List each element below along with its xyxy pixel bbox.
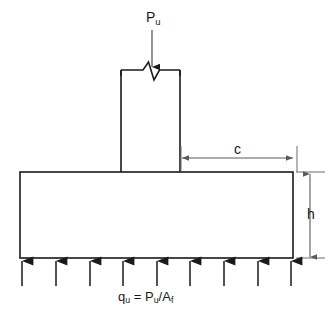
soil-pressure-area-subscript: f (171, 295, 173, 305)
column-break-symbol (121, 62, 180, 80)
soil-pressure-p-symbol: P (145, 289, 154, 304)
soil-pressure-arrow-group (22, 261, 291, 286)
applied-load-symbol: P (146, 9, 155, 25)
footing-block (20, 172, 293, 258)
cantilever-dimension-label: c (234, 142, 241, 156)
soil-pressure-area-symbol: /A (159, 289, 171, 304)
soil-pressure-p-subscript: u (154, 295, 159, 305)
soil-pressure-q-subscript: u (125, 295, 130, 305)
equation-equals-sign: = (130, 289, 145, 304)
footing-diagram: Pu c h qu = Pu/Af (0, 0, 329, 314)
diagram-canvas (0, 0, 329, 314)
applied-load-subscript: u (155, 16, 160, 27)
soil-pressure-equation: qu = Pu/Af (118, 290, 173, 303)
applied-load-label: Pu (146, 10, 161, 24)
footing-thickness-label: h (307, 207, 315, 221)
